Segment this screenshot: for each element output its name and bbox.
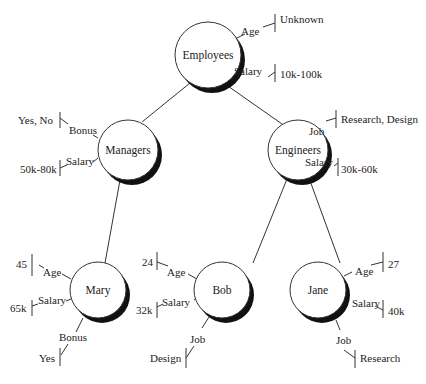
attr-value-jane-age: 27 [388,258,399,270]
attr-name-mary-salary: Salary [38,294,66,306]
node-label-bob: Bob [194,284,250,296]
node-label-managers: Managers [96,144,160,156]
attr-name-bob-salary: Salary [162,296,190,308]
attr-name-jane-job: Job [336,334,351,346]
attr-value-employees-age: Unknown [280,13,323,25]
attr-value-mary-age: 45 [16,258,27,270]
attr-value-managers-bonus: Yes, No [18,114,53,126]
node-label-jane: Jane [290,284,346,296]
attr-name-mary-age: Age [43,266,61,278]
attr-value-mary-salary: 65k [10,302,27,314]
attr-value-mary-bonus: Yes [39,352,55,364]
attr-name-bob-age: Age [167,266,185,278]
attr-name-engineers-salary: Salary [305,156,333,168]
attr-name-managers-salary: Salary [66,155,94,167]
edge-employees-engineers [225,84,282,124]
node-label-employees: Employees [175,49,241,61]
attr-value-engineers-job: Research, Design [341,113,418,125]
node-label-mary: Mary [70,284,126,296]
attr-name-bob-job: Job [190,333,205,345]
attr-name-mary-bonus: Bonus [59,331,87,343]
attr-value-bob-age: 24 [142,256,153,268]
attr-name-engineers-job: Job [309,125,324,137]
attr-name-managers-bonus: Bonus [69,124,97,136]
attr-value-employees-salary: 10k-100k [280,68,322,80]
node-label-engineers: Engineers [266,144,330,156]
attr-value-engineers-salary: 30k-60k [341,163,378,175]
attr-name-jane-age: Age [355,265,373,277]
attr-value-managers-salary: 50k-80k [20,163,57,175]
attr-name-jane-salary: Salary [352,297,380,309]
attr-value-jane-job: Research [360,352,400,364]
attr-value-bob-salary: 32k [136,304,153,316]
attr-name-employees-age: Age [241,25,259,37]
edge-engineers-bob [253,179,287,263]
edge-managers-mary [105,180,120,263]
edge-engineers-jane [309,178,340,263]
attr-value-bob-job: Design [150,352,181,364]
edge-employees-managers [142,83,190,122]
attr-value-jane-salary: 40k [388,305,405,317]
attr-name-employees-salary: Salary [234,65,262,77]
